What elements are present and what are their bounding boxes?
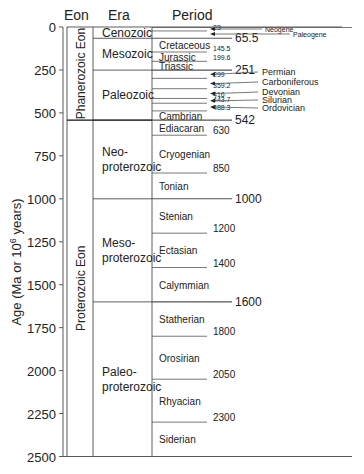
boundary-age-label: 2050	[213, 369, 236, 380]
boundary-age-label: 1400	[213, 258, 236, 269]
boundary-age-label: 443.7	[213, 96, 231, 103]
era-label: Neo-	[102, 145, 128, 159]
boundary-age-label: 1000	[235, 192, 262, 206]
eon-column: Phanerozoic EonProterozoic Eon	[67, 28, 152, 331]
period-label: Ordovician	[262, 103, 305, 113]
period-label: Ediacaran	[159, 123, 204, 134]
y-tick-label: 1000	[27, 192, 56, 207]
y-tick-label: 2000	[27, 364, 56, 379]
y-tick-label: 750	[34, 149, 56, 164]
boundary-age-label: 850	[213, 163, 230, 174]
era-column: CenozoicMesozoicPaleozoicNeo-proterozoic…	[93, 26, 161, 394]
period-column: CretaceousJurassicTriassicCambrianEdiaca…	[159, 40, 210, 445]
period-label: Paleogene	[293, 31, 327, 39]
arrow-icon	[210, 32, 215, 36]
era-label: Cenozoic	[102, 26, 152, 40]
y-tick-label: 250	[34, 63, 56, 78]
header-period: Period	[172, 7, 212, 23]
period-label: Stenian	[159, 211, 193, 222]
header-eon: Eon	[64, 7, 89, 23]
eon-label: Proterozoic Eon	[74, 246, 88, 331]
boundary-age-label: 630	[213, 125, 230, 136]
y-tick-label: 1500	[27, 278, 56, 293]
period-label: Cryogenian	[159, 149, 210, 160]
boundary-age-label: 2300	[213, 412, 236, 423]
y-tick-label: 2250	[27, 407, 56, 422]
period-label: Carboniferous	[262, 77, 319, 87]
geologic-time-chart: Eon Era Period Age (Ma or 106 years) 025…	[0, 0, 364, 474]
era-label: Meso-	[102, 236, 135, 250]
y-tick-label: 1750	[27, 321, 56, 336]
era-label: Paleozoic	[102, 88, 154, 102]
period-label: Siderian	[159, 434, 196, 445]
eon-label: Phanerozoic Eon	[74, 28, 88, 119]
era-label: Mesozoic	[102, 47, 153, 61]
period-label: Statherian	[159, 314, 205, 325]
era-label: proterozoic	[102, 380, 161, 394]
boundary-age-label: 65.5	[235, 31, 259, 45]
era-label: Paleo-	[102, 365, 137, 379]
period-label: Calymmian	[159, 280, 209, 291]
period-label: Cretaceous	[159, 40, 210, 51]
period-label: Rhyacian	[159, 396, 201, 407]
boundary-age-label: 542	[235, 113, 255, 127]
y-tick-label: 1250	[27, 235, 56, 250]
y-axis-label: Age (Ma or 106 years)	[8, 198, 24, 325]
period-label: Permian	[262, 67, 296, 77]
y-axis: 02505007501000125015001750200022502500	[27, 20, 63, 465]
boundary-age-label: 251	[235, 63, 255, 77]
y-tick-label: 500	[34, 106, 56, 121]
era-label: proterozoic	[102, 160, 161, 174]
boundary-age-label: 1800	[213, 326, 236, 337]
y-tick-label: 0	[49, 20, 56, 35]
header-era: Era	[108, 7, 130, 23]
y-tick-label: 2500	[27, 450, 56, 465]
period-label: Tonian	[159, 181, 188, 192]
boundary-age-label: 199.6	[213, 54, 231, 61]
boundary-age-label: 1600	[235, 295, 262, 309]
boundary-age-label: 145.5	[213, 45, 231, 52]
period-label: Orosirian	[159, 353, 200, 364]
era-label: proterozoic	[102, 251, 161, 265]
boundary-age-label: 1200	[213, 223, 236, 234]
period-label: Ectasian	[159, 245, 197, 256]
